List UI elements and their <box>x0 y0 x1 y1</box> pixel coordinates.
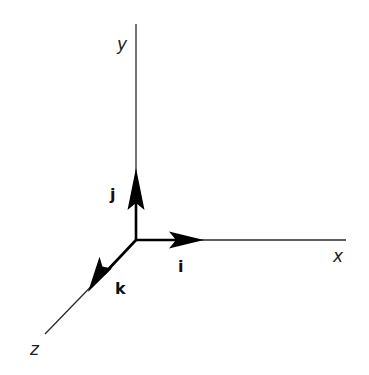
vector-j <box>128 168 145 240</box>
unit-vectors <box>88 168 204 292</box>
vector-k-label: k <box>115 279 126 298</box>
vector-i-label: i <box>178 257 183 276</box>
z-axis-label: z <box>29 339 40 359</box>
vector-j-label: j <box>109 185 115 204</box>
y-axis-label: y <box>116 34 128 54</box>
vector-i <box>136 232 204 249</box>
coordinate-axes-diagram: x y z i j k <box>0 0 369 375</box>
axis-labels: x y z <box>29 34 344 359</box>
arrowhead-down-left-icon <box>88 257 112 292</box>
vector-labels: i j k <box>109 185 183 298</box>
vector-k <box>88 240 136 292</box>
x-axis-label: x <box>332 246 344 266</box>
